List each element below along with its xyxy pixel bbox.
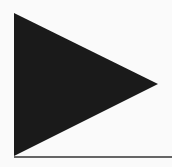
diagram-canvas — [0, 0, 172, 167]
